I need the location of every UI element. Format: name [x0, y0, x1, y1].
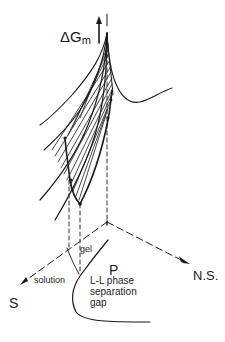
region-label-solution: solution — [34, 276, 65, 285]
axis-label-s: S — [9, 296, 18, 310]
gap-label-line1: L-L phase — [90, 275, 137, 286]
gap-label-line2: separation — [90, 286, 137, 297]
free-energy-surface — [40, 33, 172, 220]
gap-label-line3: gap — [90, 297, 137, 308]
region-label-ll-gap: L-L phaseseparationgap — [90, 275, 137, 308]
delta-g-subscript: m — [82, 34, 91, 46]
phase-diagram-figure: ΔGm P N.S. S gel solution L-L phasesepar… — [0, 0, 225, 342]
gel-boundary-curve — [67, 248, 79, 274]
region-label-gel: gel — [80, 245, 92, 254]
axis-label-ns: N.S. — [193, 269, 218, 282]
delta-g-text: ΔG — [60, 28, 82, 45]
delta-g-axis-label: ΔGm — [60, 29, 91, 46]
